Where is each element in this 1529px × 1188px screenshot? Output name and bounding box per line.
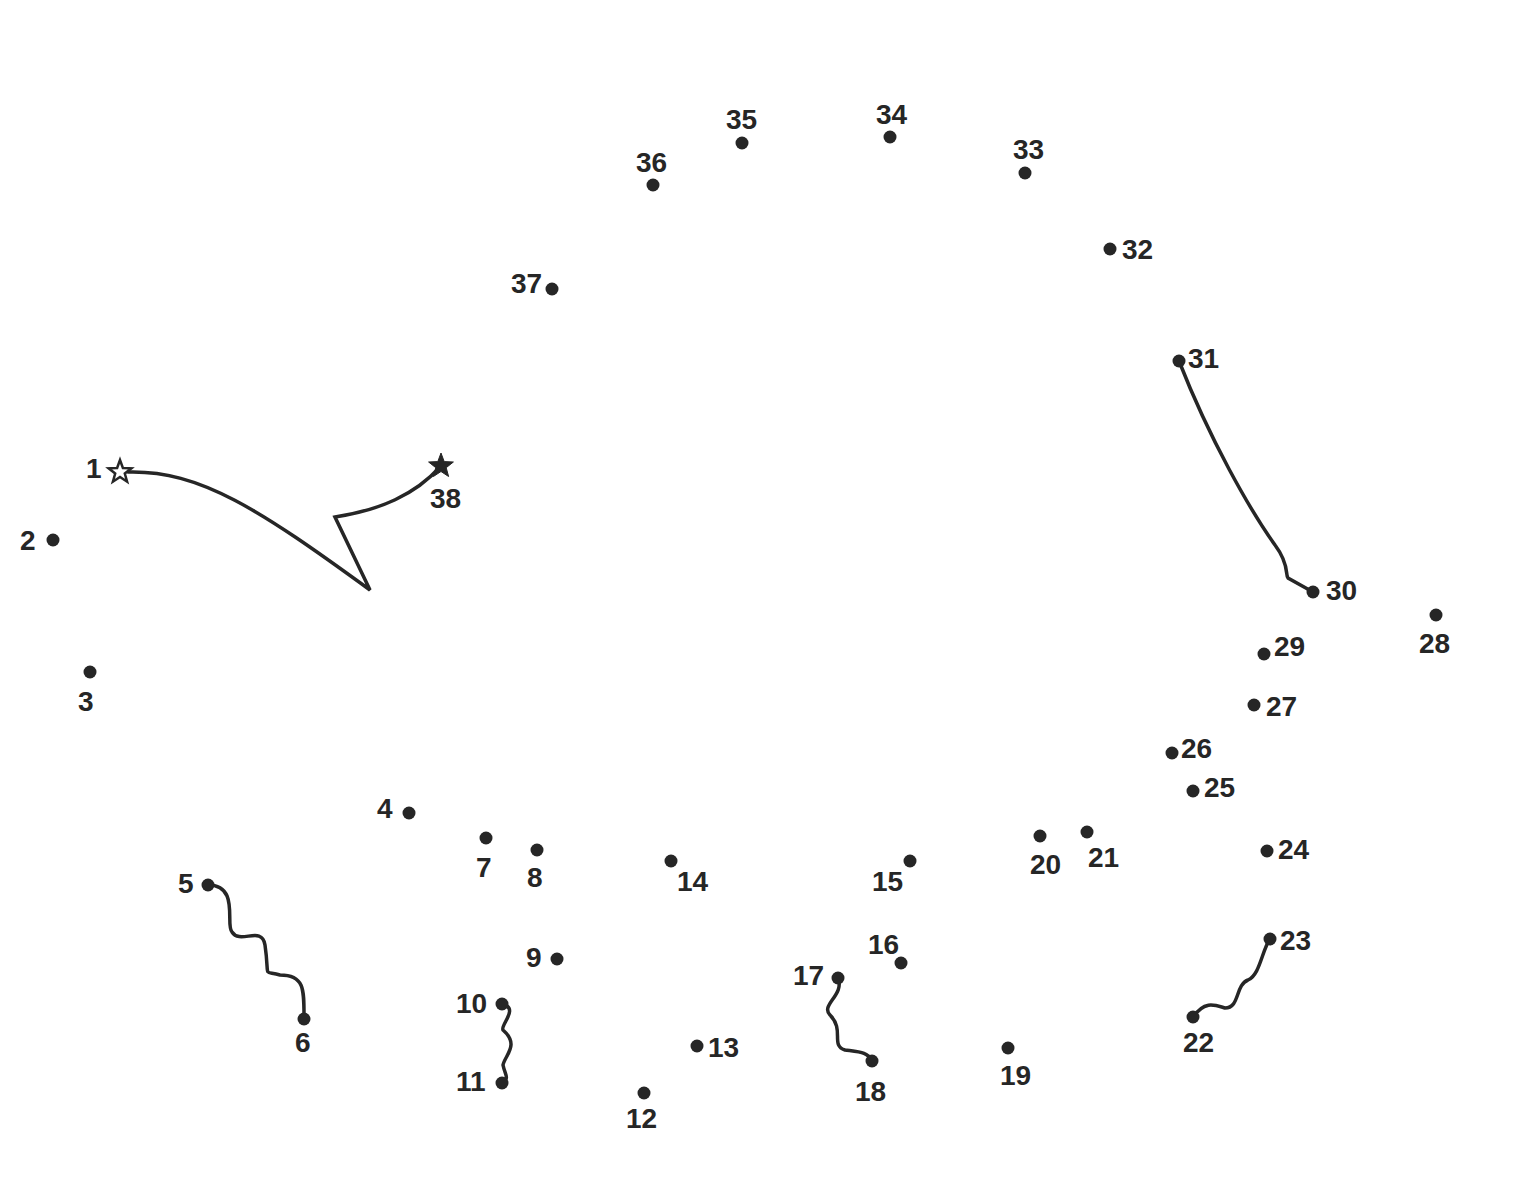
- dot-27[interactable]: 27: [1248, 691, 1298, 722]
- dot-label: 38: [430, 483, 461, 514]
- dot-label: 11: [456, 1066, 486, 1097]
- dot-label: 2: [20, 525, 36, 556]
- dot-23[interactable]: 23: [1264, 925, 1312, 956]
- dot-label: 28: [1419, 628, 1450, 659]
- dot-icon: [638, 1087, 651, 1100]
- dot-11[interactable]: 11: [456, 1066, 509, 1097]
- dot-label: 26: [1181, 733, 1212, 764]
- dot-33[interactable]: 33: [1013, 134, 1044, 180]
- dot-icon: [1002, 1042, 1015, 1055]
- dot-4[interactable]: 4: [377, 793, 416, 824]
- dot-label: 7: [476, 852, 492, 883]
- dot-icon: [1258, 648, 1271, 661]
- end-dot-38[interactable]: 38: [429, 453, 462, 514]
- dot-label: 1: [86, 453, 102, 484]
- dot-12[interactable]: 12: [626, 1087, 657, 1135]
- dot-label: 35: [726, 104, 757, 135]
- dot-label: 4: [377, 793, 393, 824]
- drawn-segments: [128, 361, 1313, 1083]
- dot-8[interactable]: 8: [527, 844, 544, 894]
- dot-icon: [84, 666, 97, 679]
- dot-icon: [736, 137, 749, 150]
- dot-label: 13: [708, 1032, 739, 1063]
- dot-icon: [1264, 933, 1277, 946]
- dot-34[interactable]: 34: [876, 99, 908, 144]
- dot-icon: [298, 1013, 311, 1026]
- dot-13[interactable]: 13: [691, 1032, 740, 1063]
- dot-label: 24: [1278, 834, 1310, 865]
- dot-label: 8: [527, 862, 543, 893]
- dot-30[interactable]: 30: [1307, 575, 1358, 606]
- dot-icon: [647, 179, 660, 192]
- dot-16[interactable]: 16: [868, 929, 908, 970]
- dot-21[interactable]: 21: [1081, 826, 1120, 874]
- dot-label: 37: [511, 268, 542, 299]
- dot-37[interactable]: 37: [511, 268, 559, 299]
- dot-label: 17: [793, 960, 824, 991]
- dot-label: 10: [456, 988, 487, 1019]
- dot-2[interactable]: 2: [20, 525, 60, 556]
- dot-icon: [1019, 167, 1032, 180]
- dot-icon: [1034, 830, 1047, 843]
- dot-label: 21: [1088, 842, 1119, 873]
- dot-icon: [1430, 609, 1443, 622]
- dot-3[interactable]: 3: [78, 666, 97, 718]
- dot-9[interactable]: 9: [526, 942, 564, 973]
- dot-label: 12: [626, 1103, 657, 1134]
- dot-label: 30: [1326, 575, 1357, 606]
- dot-20[interactable]: 20: [1030, 830, 1061, 881]
- dot-22[interactable]: 22: [1183, 1011, 1214, 1059]
- dot-19[interactable]: 19: [1000, 1042, 1031, 1092]
- dot-32[interactable]: 32: [1104, 234, 1154, 265]
- dot-label: 19: [1000, 1060, 1031, 1091]
- dot-icon: [866, 1055, 879, 1068]
- dot-35[interactable]: 35: [726, 104, 757, 150]
- dot-icon: [551, 953, 564, 966]
- dot-label: 9: [526, 942, 542, 973]
- dot-label: 34: [876, 99, 908, 130]
- dot-31[interactable]: 31: [1173, 343, 1220, 374]
- dot-icon: [1173, 355, 1186, 368]
- dot-icon: [546, 283, 559, 296]
- start-end-connector: [128, 466, 441, 590]
- dot-icon: [1187, 785, 1200, 798]
- dot-label: 33: [1013, 134, 1044, 165]
- dot-icon: [1248, 699, 1261, 712]
- dot-label: 5: [178, 868, 194, 899]
- dot-28[interactable]: 28: [1419, 609, 1450, 660]
- segment-5-6: [208, 885, 304, 1019]
- dot-label: 3: [78, 686, 94, 717]
- dot-14[interactable]: 14: [665, 855, 709, 898]
- dot-7[interactable]: 7: [476, 832, 493, 884]
- dot-29[interactable]: 29: [1258, 631, 1306, 662]
- dot-25[interactable]: 25: [1187, 772, 1236, 803]
- dot-label: 32: [1122, 234, 1153, 265]
- dot-label: 27: [1266, 691, 1297, 722]
- dot-label: 20: [1030, 849, 1061, 880]
- segment-30-31: [1179, 361, 1313, 592]
- dot-18[interactable]: 18: [855, 1055, 886, 1108]
- dot-17[interactable]: 17: [793, 960, 845, 991]
- dot-icon: [884, 131, 897, 144]
- dot-label: 16: [868, 929, 899, 960]
- dot-label: 23: [1280, 925, 1311, 956]
- dot-label: 25: [1204, 772, 1235, 803]
- dot-26[interactable]: 26: [1166, 733, 1213, 764]
- dot-icon: [403, 807, 416, 820]
- dot-icon: [480, 832, 493, 845]
- dot-label: 6: [295, 1027, 311, 1058]
- dot-36[interactable]: 36: [636, 147, 667, 192]
- dot-5[interactable]: 5: [178, 868, 215, 899]
- dot-24[interactable]: 24: [1261, 834, 1310, 865]
- start-dot-1[interactable]: 1: [86, 453, 131, 484]
- dot-6[interactable]: 6: [295, 1013, 311, 1059]
- dot-15[interactable]: 15: [872, 855, 917, 898]
- dot-icon: [202, 879, 215, 892]
- dot-to-dot-canvas: 2345678910111213141516171819202122232425…: [0, 0, 1529, 1188]
- dot-icon: [496, 998, 509, 1011]
- dots-layer: 2345678910111213141516171819202122232425…: [20, 99, 1450, 1134]
- dot-label: 29: [1274, 631, 1305, 662]
- dot-10[interactable]: 10: [456, 988, 509, 1019]
- dot-label: 14: [677, 866, 709, 897]
- segment-17-18: [828, 978, 872, 1061]
